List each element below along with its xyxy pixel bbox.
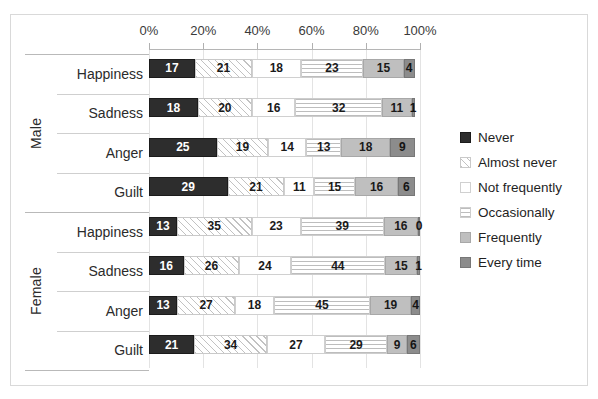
bar-segment[interactable]: 4 [411, 296, 420, 315]
bar-segment-value: 13 [156, 299, 169, 311]
bar-segment-value: 9 [399, 141, 406, 153]
bar-segment[interactable]: 9 [390, 138, 414, 157]
bar-segment[interactable]: 21 [149, 335, 194, 354]
bar-segment-value: 15 [394, 260, 407, 272]
category-label: Anger [57, 146, 143, 160]
bar-segment-value: 9 [394, 339, 401, 351]
bar-segment[interactable]: 27 [177, 296, 235, 315]
bar-segment[interactable]: 23 [301, 59, 363, 78]
x-tick-label: 80% [353, 23, 379, 39]
bar-segment[interactable]: 16 [252, 98, 295, 117]
bar-segment[interactable]: 23 [252, 217, 301, 236]
x-tick-label: 100% [403, 23, 436, 39]
bar-segment[interactable]: 21 [195, 59, 252, 78]
bar-segment[interactable]: 11 [284, 177, 314, 196]
stacked-bar[interactable]: 2134272996 [149, 335, 420, 354]
legend-label: Occasionally [478, 206, 555, 220]
bar-segment[interactable]: 16 [384, 217, 418, 236]
bar-segment[interactable]: 21 [228, 177, 285, 196]
bar-segment[interactable]: 15 [385, 256, 417, 275]
bar-segment-value: 39 [335, 220, 348, 232]
bar-segment[interactable]: 18 [341, 138, 390, 157]
bar-segment[interactable]: 25 [149, 138, 217, 157]
legend-swatch-icon [460, 132, 471, 143]
bar-segment-value: 26 [205, 260, 218, 272]
category-label: Guilt [57, 185, 143, 199]
bar-segment[interactable]: 39 [301, 217, 384, 236]
bar-segment-value: 11 [293, 181, 306, 193]
bar-segment-value: 23 [325, 62, 338, 74]
category-label: Guilt [57, 343, 143, 357]
bar-segment[interactable]: 16 [149, 256, 184, 275]
bar-segment-value: 20 [218, 102, 231, 114]
bar-segment[interactable]: 27 [267, 335, 325, 354]
stacked-bar[interactable]: 13271845194 [149, 296, 420, 315]
bar-segment[interactable]: 1 [412, 98, 415, 117]
bar-segment[interactable]: 20 [198, 98, 252, 117]
x-tick-mark [420, 43, 421, 50]
bar-segment-value: 16 [370, 181, 383, 193]
bar-segment[interactable]: 13 [306, 138, 341, 157]
bar-segment[interactable]: 14 [268, 138, 306, 157]
group-separator [25, 370, 149, 371]
bar-segment[interactable]: 18 [252, 59, 301, 78]
legend-swatch-icon [460, 257, 471, 268]
legend-swatch-icon [460, 182, 471, 193]
bar-segment[interactable]: 15 [363, 59, 404, 78]
legend-label: Every time [478, 256, 542, 270]
bar-segment-value: 45 [315, 299, 328, 311]
bar-segment[interactable]: 29 [325, 335, 387, 354]
bar-segment[interactable]: 11 [382, 98, 412, 117]
legend-item[interactable]: Frequently [460, 225, 580, 250]
bar-segment[interactable]: 4 [404, 59, 415, 78]
bar-segment-value: 25 [176, 141, 189, 153]
bar-segment[interactable]: 17 [149, 59, 195, 78]
stacked-bar[interactable]: 18201632111 [149, 98, 420, 117]
bar-segment[interactable]: 18 [235, 296, 274, 315]
bar-segment-value: 14 [281, 141, 294, 153]
bar-segment[interactable]: 16 [355, 177, 398, 196]
x-tick-label: 60% [299, 23, 325, 39]
bar-segment[interactable]: 44 [291, 256, 385, 275]
x-tick-label: 40% [244, 23, 270, 39]
bar-segment[interactable]: 34 [194, 335, 267, 354]
bar-segment-value: 15 [328, 181, 341, 193]
stacked-bar[interactable]: 13352339160 [149, 217, 420, 236]
stacked-bar[interactable]: 16262444151 [149, 256, 420, 275]
bar-segment-value: 4 [406, 62, 413, 74]
x-axis-tick-labels: 0%20%40%60%80%100% [11, 23, 587, 43]
bar-segment[interactable]: 13 [149, 296, 177, 315]
bar-segment[interactable]: 1 [417, 256, 420, 275]
legend-label: Almost never [478, 156, 557, 170]
bar-segment[interactable]: 19 [370, 296, 411, 315]
legend-item[interactable]: Occasionally [460, 200, 580, 225]
legend-item[interactable]: Every time [460, 250, 580, 275]
bar-segment-value: 24 [258, 260, 271, 272]
bar-segment[interactable]: 6 [398, 177, 414, 196]
legend-label: Never [478, 131, 514, 145]
legend-item[interactable]: Never [460, 125, 580, 150]
bar-segment-value: 18 [248, 299, 261, 311]
legend-item[interactable]: Almost never [460, 150, 580, 175]
bar-segment[interactable]: 32 [295, 98, 382, 117]
bar-segment[interactable]: 13 [149, 217, 177, 236]
bar-segment-value: 23 [269, 220, 282, 232]
bar-segment[interactable]: 6 [407, 335, 420, 354]
legend-item[interactable]: Not frequently [460, 175, 580, 200]
bar-segment[interactable]: 29 [149, 177, 228, 196]
bar-segment-value: 13 [317, 141, 330, 153]
bar-segment[interactable]: 9 [387, 335, 407, 354]
bar-segment-value: 27 [289, 339, 302, 351]
stacked-bar[interactable]: 29211115166 [149, 177, 420, 196]
bar-segment[interactable]: 0 [418, 217, 420, 236]
bar-segment[interactable]: 18 [149, 98, 198, 117]
bar-segment[interactable]: 45 [274, 296, 370, 315]
bar-segment[interactable]: 24 [239, 256, 291, 275]
bar-segment-value: 32 [332, 102, 345, 114]
stacked-bar[interactable]: 25191413189 [149, 138, 420, 157]
bar-segment[interactable]: 15 [314, 177, 355, 196]
stacked-bar[interactable]: 17211823154 [149, 59, 420, 78]
bar-segment[interactable]: 35 [177, 217, 252, 236]
bar-segment[interactable]: 19 [217, 138, 268, 157]
bar-segment[interactable]: 26 [184, 256, 240, 275]
